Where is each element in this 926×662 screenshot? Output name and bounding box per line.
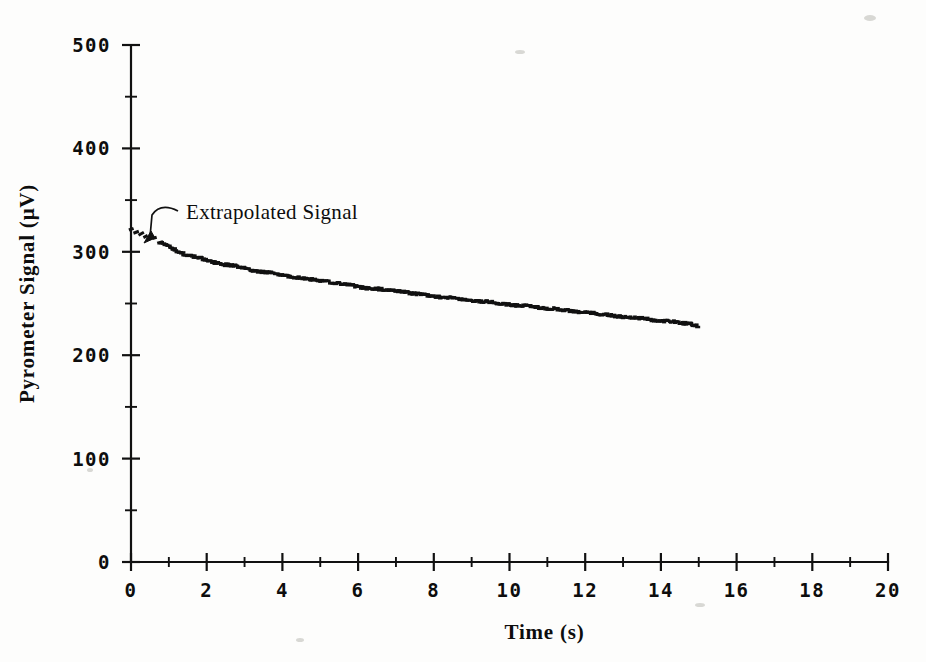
y-tick-label-500: 500 — [72, 34, 111, 56]
scan-speck-2 — [296, 638, 304, 642]
extrapolated-data-point — [128, 227, 134, 232]
x-tick-label-6: 6 — [352, 579, 365, 601]
scan-speck-1 — [864, 15, 876, 21]
x-tick-label-14: 14 — [648, 579, 674, 601]
scan-speck-0 — [515, 50, 525, 54]
x-tick-label-12: 12 — [572, 579, 598, 601]
y-axis-title: Pyrometer Signal (μV) — [15, 184, 39, 403]
y-tick-label-400: 400 — [72, 137, 111, 159]
scan-speck-3 — [695, 603, 705, 607]
y-tick-label-100: 100 — [72, 448, 111, 470]
figure-canvas: 024681012141618200100200300400500Time (s… — [0, 0, 926, 662]
data-point — [327, 280, 331, 283]
x-axis-title: Time (s) — [504, 620, 584, 644]
y-tick-label-0: 0 — [98, 551, 111, 573]
data-point — [695, 323, 699, 326]
x-tick-label-20: 20 — [875, 579, 901, 601]
x-tick-label-8: 8 — [427, 579, 440, 601]
data-point — [695, 326, 700, 329]
annotation-leader-line — [150, 208, 178, 237]
y-tick-label-300: 300 — [72, 241, 111, 263]
x-tick-label-4: 4 — [276, 579, 289, 601]
data-point — [180, 251, 185, 254]
x-tick-label-0: 0 — [125, 579, 138, 601]
annotation-label: Extrapolated Signal — [186, 200, 358, 224]
series-pyrometer-signal — [159, 241, 700, 328]
x-tick-label-16: 16 — [724, 579, 750, 601]
x-tick-label-10: 10 — [497, 579, 523, 601]
y-tick-label-200: 200 — [72, 344, 111, 366]
x-tick-label-2: 2 — [200, 579, 213, 601]
pyrometer-signal-chart: 024681012141618200100200300400500Time (s… — [0, 0, 926, 662]
x-tick-label-18: 18 — [799, 579, 825, 601]
